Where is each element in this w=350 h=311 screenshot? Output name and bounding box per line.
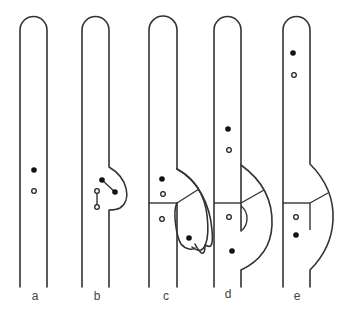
filled-dot [159, 176, 165, 182]
filled-dot [99, 177, 105, 183]
panel-label-a: a [32, 289, 39, 303]
open-dot [32, 189, 37, 194]
panel-label-e: e [294, 289, 301, 303]
panel-c [149, 16, 212, 287]
diagram-canvas [0, 0, 350, 311]
open-dot [294, 215, 299, 220]
inner-curve [241, 206, 247, 231]
filled-dot [293, 232, 299, 238]
septum-line [241, 190, 264, 203]
septum-line [177, 189, 199, 203]
open-dot [95, 205, 100, 210]
filled-dot [229, 248, 235, 254]
filled-dot [186, 235, 192, 241]
panel-d [214, 17, 272, 288]
tube-outline-left [149, 16, 177, 287]
panel-e [283, 17, 333, 288]
open-dot [292, 73, 297, 78]
open-dot [227, 215, 232, 220]
filled-dot [112, 189, 118, 195]
septum-line [310, 193, 328, 203]
filled-dot [31, 167, 37, 173]
tube-outline [214, 17, 272, 288]
filled-dot [225, 126, 231, 132]
open-dot [95, 189, 100, 194]
panel-label-c: c [163, 289, 169, 303]
open-dot [160, 217, 165, 222]
tube-outline [283, 17, 333, 288]
panel-label-b: b [94, 289, 101, 303]
panel-a [20, 17, 47, 288]
tube-outline [20, 17, 47, 288]
tube-outline [82, 17, 127, 287]
panel-label-d: d [225, 287, 232, 301]
open-dot [227, 148, 232, 153]
filled-dot [290, 50, 296, 56]
panel-b [82, 17, 127, 287]
open-dot [161, 192, 166, 197]
